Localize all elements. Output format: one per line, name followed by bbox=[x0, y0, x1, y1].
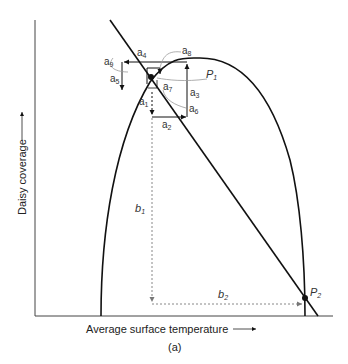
a5-label: a5 bbox=[110, 73, 120, 85]
p2-label: P2 bbox=[310, 286, 321, 299]
temperature-response-line bbox=[110, 20, 318, 316]
figure-caption: (a) bbox=[168, 341, 181, 353]
b2-label: b2 bbox=[218, 288, 228, 301]
a3-label: a3 bbox=[190, 87, 200, 99]
a7-label: a7 bbox=[163, 81, 173, 93]
p1-label: P1 bbox=[206, 68, 217, 81]
a4-label: a4 bbox=[137, 47, 147, 59]
a2-label: a2 bbox=[162, 119, 172, 131]
b1-label: b1 bbox=[135, 202, 145, 215]
a6-label: a6 bbox=[189, 103, 199, 115]
y-axis-label: Daisy coverage bbox=[16, 139, 28, 215]
leader-lines bbox=[111, 52, 207, 108]
x-axis-label: Average surface temperature bbox=[86, 323, 228, 335]
cobweb-arrows bbox=[122, 62, 187, 117]
axes bbox=[35, 20, 333, 316]
p2-point bbox=[302, 295, 308, 301]
a1-label: a1 bbox=[139, 96, 149, 108]
daisy-response-curve bbox=[101, 58, 305, 316]
daisyworld-diagram: a4 a8 a9 a5 a7 a3 a1 a6 a2 P1 P2 b1 b2 D… bbox=[0, 0, 348, 364]
a8-label: a8 bbox=[182, 45, 192, 57]
a9-label: a9 bbox=[104, 56, 114, 68]
p1-point bbox=[148, 74, 154, 80]
